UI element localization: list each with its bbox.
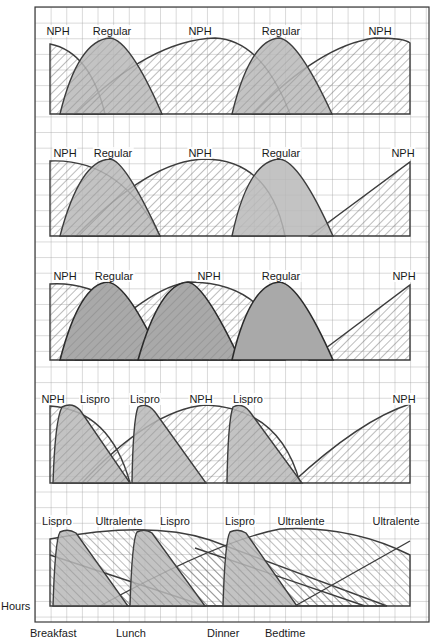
curve-label: NPH <box>390 147 415 159</box>
insulin-regimen-diagram <box>0 0 434 639</box>
panel-1 <box>50 38 410 114</box>
meal-label-lunch: Lunch <box>116 627 146 639</box>
curve-label: Regular <box>94 270 135 282</box>
meal-label-bedtime: Bedtime <box>265 627 305 639</box>
curve-label: Lispro <box>79 393 111 405</box>
panel-5 <box>50 529 410 606</box>
curve-label: Regular <box>261 25 302 37</box>
curve-label: NPH <box>187 147 212 159</box>
curve-label: Ultralente <box>371 515 420 527</box>
meal-label-breakfast: Breakfast <box>30 627 76 639</box>
curve-label: NPH <box>391 393 416 405</box>
curve-label: NPH <box>187 25 212 37</box>
curve-label: NPH <box>45 25 70 37</box>
curve-label: NPH <box>52 147 77 159</box>
curve-label: Lispro <box>224 515 256 527</box>
curve-label: NPH <box>391 270 416 282</box>
curve-label: Ultralente <box>94 515 143 527</box>
curve-label: NPH <box>367 25 392 37</box>
curve-label: NPH <box>188 393 213 405</box>
curve-label: Regular <box>92 25 133 37</box>
curve-label: Lispro <box>159 515 191 527</box>
curve-label: NPH <box>52 270 77 282</box>
curve-label: Lispro <box>41 515 73 527</box>
curve-label: Lispro <box>232 393 264 405</box>
curve-label: Regular <box>93 147 134 159</box>
hours-axis-label: Hours <box>1 600 30 612</box>
curve-label: Lispro <box>129 393 161 405</box>
curve-label: Ultralente <box>276 515 325 527</box>
curve-label: NPH <box>40 393 65 405</box>
curve-label: NPH <box>196 270 221 282</box>
curve-label: Regular <box>261 147 302 159</box>
curve-label: Regular <box>261 270 302 282</box>
meal-label-dinner: Dinner <box>207 627 239 639</box>
